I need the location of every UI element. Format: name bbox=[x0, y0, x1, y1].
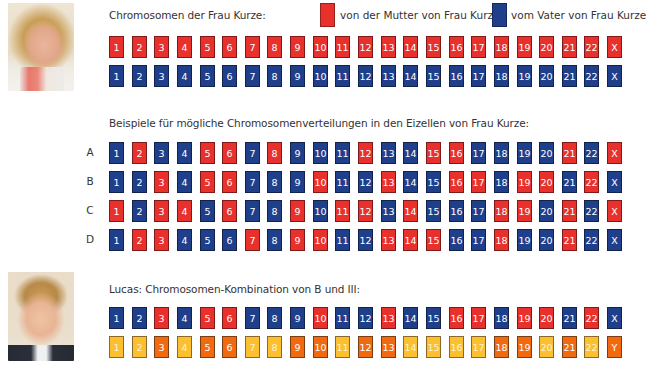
chromosome-5: 5 bbox=[200, 229, 215, 251]
chromosome-15: 15 bbox=[426, 336, 441, 358]
chromosome-2: 2 bbox=[132, 307, 147, 329]
chromosome-11: 11 bbox=[335, 65, 350, 87]
chromosome-16: 16 bbox=[449, 307, 464, 329]
chromosome-10: 10 bbox=[313, 307, 328, 329]
chromosome-4: 4 bbox=[177, 142, 192, 164]
chromosome-17: 17 bbox=[471, 200, 486, 222]
chromosome-20: 20 bbox=[539, 171, 554, 193]
chromosome-18: 18 bbox=[494, 142, 509, 164]
chromosome-6: 6 bbox=[222, 36, 237, 58]
chromosome-x: X bbox=[607, 142, 622, 164]
chromosome-9: 9 bbox=[290, 307, 305, 329]
chromosome-6: 6 bbox=[222, 171, 237, 193]
chromosome-x: X bbox=[607, 171, 622, 193]
chromosome-1: 1 bbox=[109, 171, 124, 193]
chromosome-22: 22 bbox=[584, 142, 599, 164]
chromosome-5: 5 bbox=[200, 200, 215, 222]
chromosome-2: 2 bbox=[132, 200, 147, 222]
chromosome-15: 15 bbox=[426, 36, 441, 58]
chromosome-5: 5 bbox=[200, 336, 215, 358]
chromosome-21: 21 bbox=[562, 229, 577, 251]
chromosome-10: 10 bbox=[313, 142, 328, 164]
chromosome-20: 20 bbox=[539, 336, 554, 358]
chromosome-1: 1 bbox=[109, 36, 124, 58]
chromosome-16: 16 bbox=[449, 171, 464, 193]
chromosome-1: 1 bbox=[109, 336, 124, 358]
chromosome-12: 12 bbox=[358, 65, 373, 87]
chromosome-21: 21 bbox=[562, 65, 577, 87]
chromosome-2: 2 bbox=[132, 229, 147, 251]
chromosome-5: 5 bbox=[200, 142, 215, 164]
chromosome-16: 16 bbox=[449, 336, 464, 358]
chromosome-18: 18 bbox=[494, 307, 509, 329]
chromosome-7: 7 bbox=[245, 142, 260, 164]
chromosome-4: 4 bbox=[177, 171, 192, 193]
chromosome-2: 2 bbox=[132, 36, 147, 58]
chromosome-7: 7 bbox=[245, 336, 260, 358]
chromosome-2: 2 bbox=[132, 171, 147, 193]
chromosome-21: 21 bbox=[562, 142, 577, 164]
chromosome-12: 12 bbox=[358, 200, 373, 222]
chromosome-12: 12 bbox=[358, 36, 373, 58]
chromosome-8: 8 bbox=[267, 142, 282, 164]
chromosome-3: 3 bbox=[154, 65, 169, 87]
row-label-a: A bbox=[84, 146, 96, 158]
chromosome-5: 5 bbox=[200, 36, 215, 58]
chromosome-5: 5 bbox=[200, 65, 215, 87]
chromosome-3: 3 bbox=[154, 307, 169, 329]
chromosome-18: 18 bbox=[494, 65, 509, 87]
chromosome-20: 20 bbox=[539, 65, 554, 87]
chromosome-4: 4 bbox=[177, 200, 192, 222]
chromosome-20: 20 bbox=[539, 36, 554, 58]
chromosome-17: 17 bbox=[471, 171, 486, 193]
chromosome-7: 7 bbox=[245, 229, 260, 251]
chromosome-3: 3 bbox=[154, 36, 169, 58]
chromosome-10: 10 bbox=[313, 200, 328, 222]
chromosome-3: 3 bbox=[154, 200, 169, 222]
row-label-b: B bbox=[84, 175, 96, 187]
chromosome-8: 8 bbox=[267, 36, 282, 58]
chromosome-1: 1 bbox=[109, 200, 124, 222]
chromosome-3: 3 bbox=[154, 336, 169, 358]
chromosome-13: 13 bbox=[381, 200, 396, 222]
chromosome-9: 9 bbox=[290, 200, 305, 222]
chromosome-2: 2 bbox=[132, 65, 147, 87]
chromosome-9: 9 bbox=[290, 229, 305, 251]
chromosome-1: 1 bbox=[109, 307, 124, 329]
chromosome-7: 7 bbox=[245, 171, 260, 193]
lucas-section-title: Lucas: Chromosomen-Kombination von B und… bbox=[109, 283, 360, 295]
chromosome-22: 22 bbox=[584, 307, 599, 329]
chromosome-13: 13 bbox=[381, 142, 396, 164]
chromosome-9: 9 bbox=[290, 65, 305, 87]
chromosome-21: 21 bbox=[562, 200, 577, 222]
chromosome-13: 13 bbox=[381, 307, 396, 329]
chromosome-19: 19 bbox=[517, 336, 532, 358]
chromosome-12: 12 bbox=[358, 171, 373, 193]
chromosome-13: 13 bbox=[381, 65, 396, 87]
chromosome-17: 17 bbox=[471, 229, 486, 251]
photo-lucas bbox=[8, 272, 74, 361]
chromosome-16: 16 bbox=[449, 36, 464, 58]
chromosome-22: 22 bbox=[584, 336, 599, 358]
examples-section-title: Beispiele für mögliche Chromosomenvertei… bbox=[109, 117, 529, 129]
chromosome-10: 10 bbox=[313, 336, 328, 358]
chromosome-18: 18 bbox=[494, 200, 509, 222]
chromosome-17: 17 bbox=[471, 307, 486, 329]
chromosome-15: 15 bbox=[426, 307, 441, 329]
chromosome-4: 4 bbox=[177, 336, 192, 358]
chromosome-1: 1 bbox=[109, 229, 124, 251]
chromosome-21: 21 bbox=[562, 36, 577, 58]
chromosome-15: 15 bbox=[426, 65, 441, 87]
chromosome-4: 4 bbox=[177, 36, 192, 58]
chromosome-10: 10 bbox=[313, 229, 328, 251]
chromosome-y: Y bbox=[607, 336, 622, 358]
chromosome-7: 7 bbox=[245, 65, 260, 87]
chromosome-22: 22 bbox=[584, 171, 599, 193]
chromosome-6: 6 bbox=[222, 65, 237, 87]
chromosome-21: 21 bbox=[562, 171, 577, 193]
row-label-d: D bbox=[84, 233, 96, 245]
chromosome-19: 19 bbox=[517, 307, 532, 329]
chromosome-16: 16 bbox=[449, 142, 464, 164]
chromosome-16: 16 bbox=[449, 65, 464, 87]
chromosome-16: 16 bbox=[449, 200, 464, 222]
